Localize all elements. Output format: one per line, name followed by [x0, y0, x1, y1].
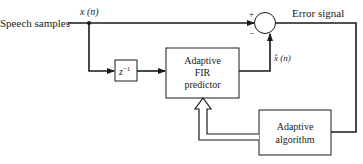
signal-x-label: x (n) — [79, 6, 99, 18]
prediction-line — [239, 34, 270, 71]
branch-to-delay — [89, 23, 114, 71]
input-label: Speech samples — [0, 17, 70, 29]
coefficient-update-arrow — [195, 98, 259, 140]
plus-sign: + — [249, 9, 254, 19]
error-signal-label: Error signal — [292, 7, 344, 19]
adaptive-algorithm-block — [259, 110, 331, 155]
fir-label-3: predictor — [184, 79, 221, 90]
adaptive-predictor-diagram: Speech samples x (n) z−1 Adaptive FIR pr… — [0, 0, 363, 164]
minus-sign: − — [249, 28, 254, 38]
fir-label-1: Adaptive — [184, 55, 221, 66]
summing-junction — [255, 13, 276, 34]
fir-label-2: FIR — [195, 67, 211, 78]
signal-xhat-label: x̂ (n) — [273, 53, 291, 63]
algo-label-2: algorithm — [276, 134, 315, 145]
algo-label-1: Adaptive — [277, 121, 314, 132]
